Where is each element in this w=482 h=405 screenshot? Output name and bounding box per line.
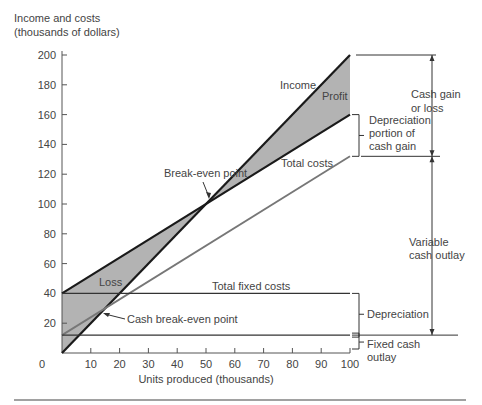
loss-label: Loss <box>99 276 123 288</box>
arrow-up-icon <box>430 55 435 61</box>
x-tick-label: 0 <box>39 358 45 370</box>
y-tick-label: 40 <box>44 287 56 299</box>
y-tick-label: 120 <box>38 168 56 180</box>
chart-figure: 2040608010012014016018020001020304050607… <box>0 0 482 405</box>
arrow-up-icon <box>430 156 435 162</box>
y-tick-label: 100 <box>38 198 56 210</box>
y-tick-label: 80 <box>44 228 56 240</box>
y-tick-label: 160 <box>38 109 56 121</box>
series-line <box>62 156 350 335</box>
x-tick-label: 50 <box>200 358 212 370</box>
depreciation-portion-bracket <box>352 115 364 157</box>
dep-portion-label-3: cash gain <box>369 140 416 152</box>
x-tick-label: 80 <box>286 358 298 370</box>
depreciation-bracket <box>352 293 364 337</box>
arrow-head-icon <box>206 192 211 199</box>
chart-lines <box>62 55 350 353</box>
break-even-label: Break-even point <box>164 167 247 179</box>
y-axis-title-line2: (thousands of dollars) <box>14 26 120 38</box>
x-tick-label: 90 <box>315 358 327 370</box>
y-tick-label: 180 <box>38 79 56 91</box>
variable-cash-label-1: Variable <box>409 236 449 248</box>
x-tick-label: 70 <box>257 358 269 370</box>
profit-label: Profit <box>322 90 348 102</box>
cash-break-even-label: Cash break-even point <box>127 313 238 325</box>
break-even-chart: 2040608010012014016018020001020304050607… <box>0 0 482 405</box>
cash-gain-label-1: Cash gain <box>411 88 461 100</box>
income-label: Income <box>280 79 316 91</box>
y-tick-label: 200 <box>38 49 56 61</box>
total-fixed-costs-label: Total fixed costs <box>212 280 291 292</box>
x-axis-title: Units produced (thousands) <box>138 373 273 385</box>
dep-portion-label-1: Depreciation <box>369 114 431 126</box>
x-tick-label: 20 <box>113 358 125 370</box>
x-tick-label: 60 <box>229 358 241 370</box>
y-axis-title-line1: Income and costs <box>14 12 101 24</box>
series-line <box>62 115 350 294</box>
x-tick-label: 30 <box>142 358 154 370</box>
depreciation-label: Depreciation <box>367 308 429 320</box>
x-tick-label: 10 <box>85 358 97 370</box>
fixed-cash-label-1: Fixed cash <box>367 338 420 350</box>
fixed-cash-label-2: outlay <box>367 351 397 363</box>
y-tick-label: 60 <box>44 258 56 270</box>
y-tick-label: 140 <box>38 138 56 150</box>
total-costs-label: Total costs <box>281 157 333 169</box>
x-tick-label: 100 <box>341 358 359 370</box>
cash-gain-label-2: or loss <box>411 102 444 114</box>
arrow-down-icon <box>430 329 435 335</box>
variable-cash-label-2: cash outlay <box>409 249 465 261</box>
x-tick-label: 40 <box>171 358 183 370</box>
arrow-down-icon <box>430 150 435 156</box>
y-tick-label: 20 <box>44 317 56 329</box>
dep-portion-label-2: portion of <box>369 127 416 139</box>
arrow-head-icon <box>103 313 110 317</box>
